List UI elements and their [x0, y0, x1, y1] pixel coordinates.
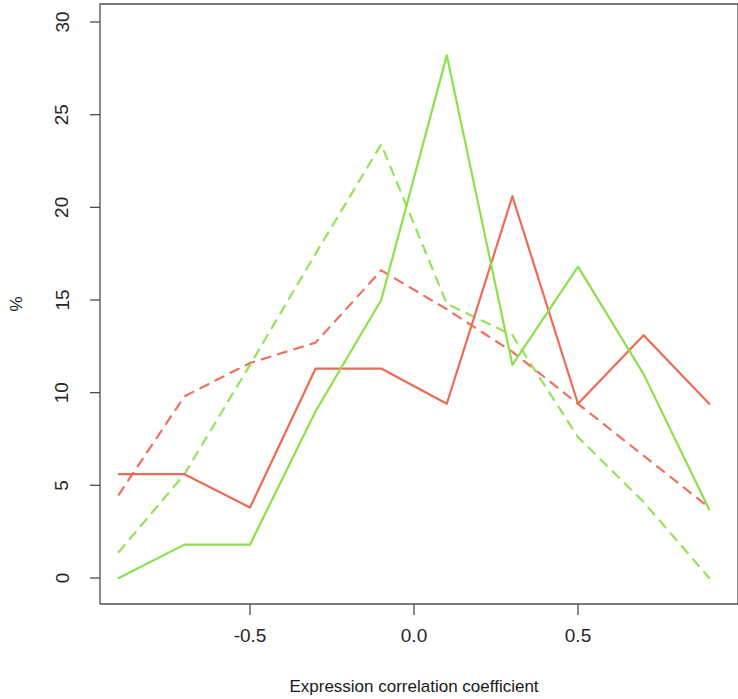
- y-tick-label: 25: [52, 104, 73, 125]
- line-chart-plot: 051015202530 -0.50.00.5 Expression corre…: [0, 0, 738, 699]
- x-axis-title: Expression correlation coefficient: [289, 677, 538, 696]
- y-tick-label: 30: [52, 11, 73, 32]
- x-tick-label: 0.5: [565, 625, 591, 646]
- y-axis-tick-labels: 051015202530: [52, 11, 73, 583]
- series-line-red-solid: [119, 196, 709, 507]
- y-axis-ticks: [90, 22, 100, 578]
- x-tick-label: 0.0: [401, 625, 427, 646]
- y-axis-title: %: [7, 296, 26, 311]
- y-tick-label: 10: [52, 382, 73, 403]
- x-axis-tick-labels: -0.50.00.5: [234, 625, 592, 646]
- y-tick-label: 20: [52, 197, 73, 218]
- y-tick-label: 5: [52, 480, 73, 491]
- series-line-red-dashed: [119, 270, 709, 507]
- x-axis-ticks: [250, 604, 578, 615]
- x-tick-label: -0.5: [234, 625, 267, 646]
- y-tick-label: 0: [52, 573, 73, 584]
- plot-frame: [100, 4, 738, 604]
- data-series-group: [119, 55, 709, 578]
- chart-figure: 051015202530 -0.50.00.5 Expression corre…: [0, 0, 738, 699]
- y-tick-label: 15: [52, 289, 73, 310]
- series-line-green-solid: [119, 55, 709, 578]
- plot-box-border: [100, 4, 738, 604]
- series-line-green-dashed: [119, 144, 709, 578]
